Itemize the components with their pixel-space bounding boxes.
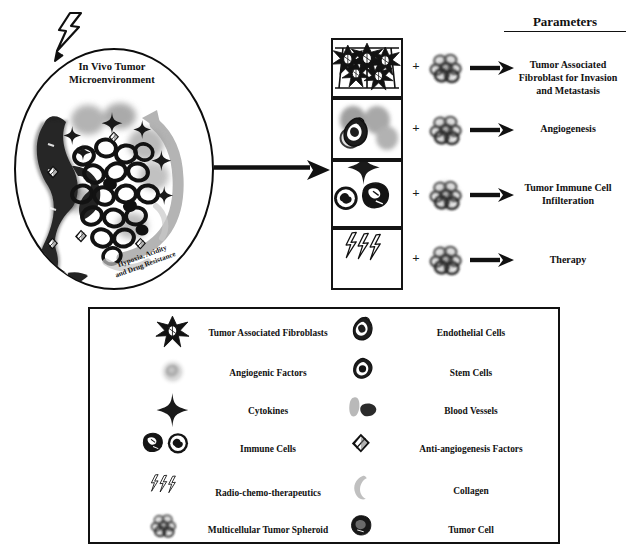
- param-label-2-line2: Infilteration: [500, 194, 636, 207]
- radio-chemo-therapeutics-icon: [134, 475, 202, 511]
- anti-angiogenesis-factors-icon: [338, 431, 394, 467]
- param-label-0-line1: Tumor Associated: [500, 58, 636, 71]
- multicellular-tumor-spheroid-icon-row-2: [424, 173, 468, 217]
- legend-item-radio-chemo-therapeutics: Radio-chemo-therapeutics: [134, 475, 338, 511]
- legend-item-collagen: Collagen: [338, 473, 552, 509]
- panel-tumor-associated-fibroblasts: [331, 38, 403, 98]
- legend-label: Multicellular Tumor Spheroid: [202, 525, 338, 536]
- legend-item-immune-cells: Immune Cells: [134, 431, 338, 467]
- blood-vessels-icon: [338, 393, 394, 429]
- legend-label: Endothelial Cells: [394, 328, 552, 339]
- legend-label: Blood Vessels: [394, 406, 552, 417]
- legend-item-anti-angiogenesis-factors: Anti-angiogenesis Factors: [338, 431, 552, 467]
- param-label-2-line1: Tumor Immune Cell: [500, 181, 636, 194]
- legend-item-blood-vessels: Blood Vessels: [338, 393, 552, 429]
- panel-therapy: [331, 228, 403, 290]
- legend-label: Radio-chemo-therapeutics: [202, 488, 338, 499]
- legend-left-column: Tumor Associated Fibroblasts Angiogenic …: [90, 309, 338, 542]
- tumor-associated-fibroblasts-icon: [146, 315, 202, 351]
- param-label-0-line3: and Metastasis: [500, 84, 636, 97]
- param-label-1-line1: Angiogenesis: [500, 122, 636, 135]
- multicellular-tumor-spheroid-icon-row-1: [424, 108, 468, 152]
- legend-label: Anti-angiogenesis Factors: [394, 444, 552, 455]
- legend-label: Angiogenic Factors: [202, 368, 338, 379]
- legend-item-multicellular-tumor-spheroid: Multicellular Tumor Spheroid: [134, 512, 338, 548]
- main-transition-arrow-icon: [214, 158, 330, 182]
- param-label-3-line1: Therapy: [500, 253, 636, 266]
- figure-canvas: In Vivo Tumor Microenvironment Hypoxia, …: [0, 0, 636, 554]
- angiogenic-factors-icon: [146, 355, 202, 391]
- legend-item-endothelial-cells: Endothelial Cells: [338, 315, 552, 351]
- immune-cells-icon: [134, 431, 202, 467]
- param-label-3: Therapy: [500, 253, 636, 266]
- plus-sign-row-1: +: [409, 120, 423, 136]
- in-vivo-title-line1: In Vivo Tumor: [42, 60, 182, 73]
- endothelial-cells-icon: [338, 315, 394, 351]
- multicellular-tumor-spheroid-icon-row-3: [424, 238, 468, 282]
- legend-label: Collagen: [394, 486, 552, 497]
- multicellular-tumor-spheroid-icon: [134, 512, 202, 548]
- stem-cells-icon: [338, 355, 394, 391]
- legend-label: Stem Cells: [394, 368, 552, 379]
- legend-label: Tumor Associated Fibroblasts: [202, 328, 338, 339]
- panel-angiogenesis: [331, 98, 403, 160]
- param-label-0-line2: Fibroblast for Invasion: [500, 71, 636, 84]
- legend-label: Immune Cells: [202, 444, 338, 455]
- plus-sign-row-0: +: [409, 58, 423, 74]
- legend-item-tumor-cell: Tumor Cell: [338, 512, 552, 548]
- plus-sign-row-2: +: [409, 185, 423, 201]
- parameters-heading: Parameters: [504, 14, 626, 32]
- in-vivo-title-line2: Microenvironment: [42, 73, 182, 86]
- in-vivo-title: In Vivo Tumor Microenvironment: [42, 60, 182, 86]
- cytokines-icon: [146, 393, 202, 429]
- legend-item-cytokines: Cytokines: [146, 393, 338, 429]
- multicellular-tumor-spheroid-icon-row-0: [424, 46, 468, 90]
- legend-label: Cytokines: [202, 406, 338, 417]
- legend-right-column: Endothelial Cells Stem Cells Blood Vesse…: [338, 309, 556, 542]
- param-label-2: Tumor Immune Cell Infilteration: [500, 181, 636, 207]
- legend-item-tumor-associated-fibroblasts: Tumor Associated Fibroblasts: [146, 315, 338, 351]
- param-label-0: Tumor Associated Fibroblast for Invasion…: [500, 58, 636, 97]
- legend-box: Tumor Associated Fibroblasts Angiogenic …: [88, 307, 560, 544]
- plus-sign-row-3: +: [409, 250, 423, 266]
- legend-label: Tumor Cell: [394, 525, 552, 536]
- param-label-1: Angiogenesis: [500, 122, 636, 135]
- legend-item-angiogenic-factors: Angiogenic Factors: [146, 355, 338, 391]
- panel-tumor-immune-cell-infiltration: [331, 160, 403, 228]
- tumor-cell-icon: [338, 512, 394, 548]
- legend-item-stem-cells: Stem Cells: [338, 355, 552, 391]
- collagen-icon: [338, 473, 394, 509]
